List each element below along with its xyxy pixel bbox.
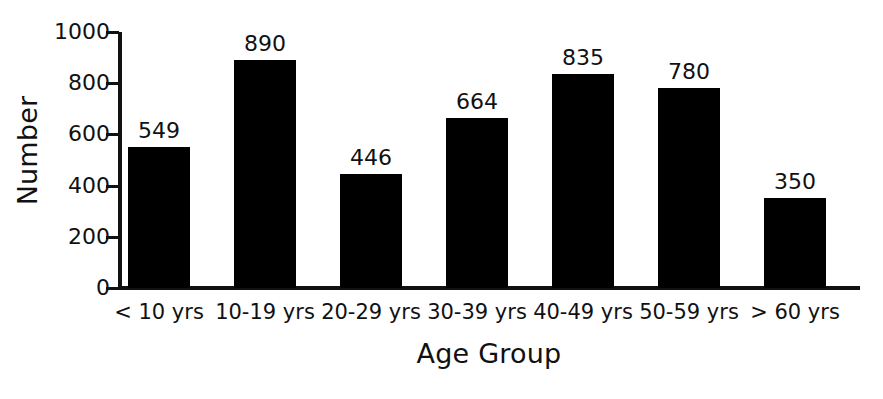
x-axis-category-label: 10-19 yrs [210, 300, 320, 324]
x-axis-title: Age Group [118, 338, 860, 369]
x-axis-category-label: > 60 yrs [740, 300, 850, 324]
y-axis-tick-label-wrap: 200 [30, 226, 110, 248]
y-axis-tick-label-wrap: 1000 [30, 21, 110, 43]
x-axis-category-label: 50-59 yrs [634, 300, 744, 324]
x-axis-category-label: 20-29 yrs [316, 300, 426, 324]
y-axis-tick-label: 600 [30, 123, 110, 145]
y-axis-tick-label-wrap: 600 [30, 123, 110, 145]
y-axis-tick-label-wrap: 800 [30, 72, 110, 94]
y-axis-tick-label-wrap: 400 [30, 175, 110, 197]
y-axis-tick-label-wrap: 0 [30, 277, 110, 299]
y-axis-tick-label: 800 [30, 72, 110, 94]
y-axis-tick-labels: 02004006008001000 [30, 0, 110, 320]
bar-chart: Number 02004006008001000 549890446664835… [0, 0, 883, 399]
y-axis-tick-label: 400 [30, 175, 110, 197]
y-axis-tick-label: 0 [30, 277, 110, 299]
x-axis-category-label: 30-39 yrs [422, 300, 532, 324]
x-axis-category-labels: < 10 yrs10-19 yrs20-29 yrs30-39 yrs40-49… [118, 0, 860, 330]
x-axis-category-label: < 10 yrs [104, 300, 214, 324]
y-axis-tick-label: 1000 [30, 21, 110, 43]
y-axis-tick-label: 200 [30, 226, 110, 248]
x-axis-category-label: 40-49 yrs [528, 300, 638, 324]
